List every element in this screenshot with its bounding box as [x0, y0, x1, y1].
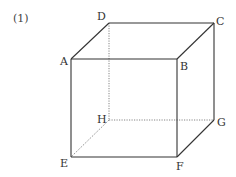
vertex-label-b: B — [180, 60, 188, 73]
hidden-edges — [71, 23, 214, 157]
vertex-label-h: H — [97, 113, 107, 126]
vertex-label-g: G — [217, 116, 226, 129]
edge-AD — [71, 23, 109, 59]
cube-diagram: (1) D C A B H G E F — [0, 0, 236, 177]
vertex-label-e: E — [60, 157, 68, 170]
vertex-label-c: C — [216, 15, 224, 28]
edge-CB — [177, 23, 214, 59]
edge-GF — [177, 120, 214, 157]
solid-edges — [71, 23, 214, 157]
problem-number: (1) — [13, 12, 29, 25]
vertex-label-d: D — [97, 10, 106, 23]
vertex-label-a: A — [59, 55, 69, 68]
vertex-label-f: F — [176, 160, 184, 173]
